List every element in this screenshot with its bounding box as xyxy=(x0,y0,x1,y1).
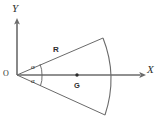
origin-label: O xyxy=(3,70,9,78)
x-axis-label: X xyxy=(147,64,154,75)
y-axis-group xyxy=(14,18,20,75)
figure-container: Y X O R G α α xyxy=(0,0,161,127)
upper-angle-label: α xyxy=(31,64,35,71)
lower-angle-arc xyxy=(40,75,42,86)
upper-radius-line xyxy=(17,38,103,75)
y-axis-label: Y xyxy=(12,3,18,14)
centroid-dot xyxy=(75,73,78,76)
radius-label: R xyxy=(53,46,59,54)
sector-arc xyxy=(103,38,111,115)
centroid-label: G xyxy=(74,82,80,90)
upper-angle-arc xyxy=(40,64,42,75)
sector-diagram-canvas xyxy=(0,0,161,127)
x-axis-group xyxy=(17,72,146,78)
x-axis-arrowhead xyxy=(139,72,146,78)
lower-angle-label: α xyxy=(31,78,35,85)
